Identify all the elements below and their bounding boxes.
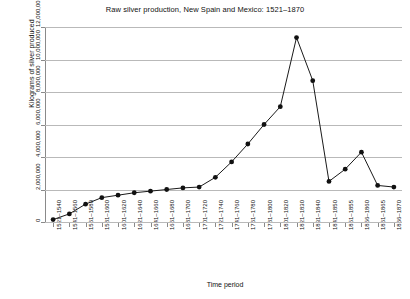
x-tick-mark [329,223,330,227]
x-tick-mark [264,223,265,227]
data-point [148,189,153,194]
data-point [83,202,88,207]
x-tick-mark [215,223,216,227]
series-points [51,35,397,222]
x-tick-mark [53,223,54,227]
data-point [245,142,250,147]
x-tick-mark [280,223,281,227]
x-tick-mark [248,223,249,227]
data-point [213,175,218,180]
x-tick-mark [183,223,184,227]
x-tick-mark [394,223,395,227]
data-point [262,122,267,127]
data-point [67,211,72,216]
x-tick-mark [313,223,314,227]
x-axis-title: Time period [40,281,410,288]
series-line [53,38,394,220]
y-axis-title: Kilograms of silver produced [28,0,35,149]
x-tick-mark [167,223,168,227]
data-point [229,159,234,164]
plot-area [45,27,402,222]
x-tick-mark [151,223,152,227]
data-point [391,185,396,190]
data-point [294,35,299,40]
data-point [51,217,56,222]
x-tick-mark [378,223,379,227]
data-point [197,185,202,190]
series-silver-production [45,27,402,222]
data-point [310,78,315,83]
data-point [132,190,137,195]
data-point [181,185,186,190]
x-tick-mark [118,223,119,227]
data-point [164,187,169,192]
x-tick-mark [102,223,103,227]
x-tick-mark [86,223,87,227]
x-tick-mark [69,223,70,227]
x-tick-mark [134,223,135,227]
data-point [343,167,348,172]
data-point [116,193,121,198]
data-point [375,183,380,188]
data-point [99,195,104,200]
chart-title: Raw silver production, New Spain and Mex… [0,5,410,14]
x-tick-mark [232,223,233,227]
x-tick-mark [199,223,200,227]
data-point [278,104,283,109]
gridline [45,222,402,223]
x-tick-mark [345,223,346,227]
data-point [327,179,332,184]
data-point [359,150,364,155]
x-tick-mark [297,223,298,227]
x-tick-mark [361,223,362,227]
chart-container: Raw silver production, New Spain and Mex… [0,0,410,299]
